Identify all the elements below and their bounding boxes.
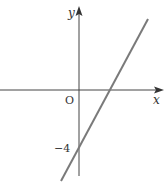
- x-axis-label: x: [153, 93, 160, 107]
- y-axis-label: y: [67, 6, 75, 20]
- graph-line: [61, 19, 148, 181]
- y-intercept-label: −4: [54, 142, 70, 155]
- origin-label: O: [65, 94, 74, 107]
- coordinate-graph: y x O −4: [0, 0, 167, 185]
